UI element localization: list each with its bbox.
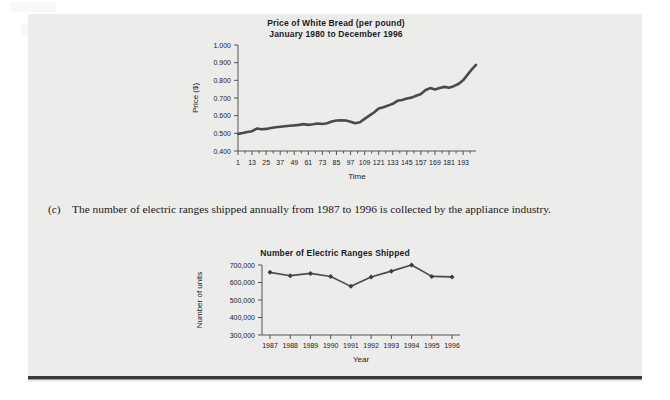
chart2-data-point (389, 268, 394, 273)
chart2-data-point (450, 274, 455, 279)
chart2-data-point (288, 273, 293, 278)
chart2-x-tick-label: 1995 (424, 342, 440, 349)
chart2-y-axis-label: Number of units (195, 271, 204, 327)
chart2-data-point (328, 274, 333, 279)
chart1-subtitle: January 1980 to December 1996 (186, 29, 486, 40)
chart2-data-point (268, 269, 273, 274)
chart2-x-tick-label: 1991 (343, 342, 359, 349)
chart2-data-point (348, 283, 353, 288)
chart1-x-tick-label: 85 (333, 159, 341, 166)
chart2-x-tick-label: 1992 (363, 342, 379, 349)
chart1-y-tick-label: 0.900 (213, 59, 231, 66)
chart1-y-tick-label: 0.600 (213, 112, 231, 119)
paragraph-c: (c) The number of electric ranges shippe… (48, 202, 608, 218)
chart2-x-tick-label: 1996 (444, 342, 460, 349)
chart2-x-tick-label: 1988 (282, 342, 298, 349)
paragraph-c-marker: (c) (48, 202, 61, 218)
page-canvas: Price of White Bread (per pound) January… (0, 0, 670, 400)
chart2-data-point (369, 274, 374, 279)
page-bottom-rule-shadow (28, 379, 642, 380)
chart2-data-point (308, 270, 313, 275)
chart1-x-tick-label: 145 (401, 159, 413, 166)
chart2-y-tick-label: 600,000 (230, 279, 255, 286)
chart-white-bread-price: Price of White Bread (per pound) January… (186, 18, 486, 193)
chart2-x-tick-label: 1994 (404, 342, 420, 349)
chart1-x-tick-label: 193 (457, 159, 469, 166)
chart2-y-tick-label: 700,000 (230, 261, 255, 268)
chart1-y-axis-label: Price ($) (191, 83, 200, 114)
chart1-svg: 1.0000.9000.8000.7000.6000.5000.40011325… (186, 39, 486, 189)
chart1-x-tick-label: 121 (373, 159, 385, 166)
chart1-x-tick-label: 73 (319, 159, 327, 166)
chart2-title: Number of Electric Ranges Shipped (190, 248, 480, 259)
chart1-x-tick-label: 97 (347, 159, 355, 166)
chart1-x-tick-label: 109 (359, 159, 371, 166)
chart2-plot: 700,000600,000500,000400,000300,00019871… (190, 259, 480, 367)
chart2-x-tick-label: 1989 (303, 342, 319, 349)
chart1-x-tick-label: 157 (415, 159, 427, 166)
chart2-y-tick-label: 400,000 (230, 314, 255, 321)
chart1-x-tick-label: 13 (248, 159, 256, 166)
chart2-x-tick-label: 1987 (262, 342, 278, 349)
chart2-y-tick-label: 500,000 (230, 296, 255, 303)
chart1-x-tick-label: 37 (276, 159, 284, 166)
chart1-x-tick-label: 25 (262, 159, 270, 166)
chart2-series-line (270, 265, 452, 286)
chart1-y-tick-label: 0.500 (213, 130, 231, 137)
chart2-y-tick-label: 300,000 (230, 331, 255, 338)
chart1-series-line (238, 65, 476, 134)
chart1-y-tick-label: 0.400 (213, 148, 231, 155)
chart1-x-axis-label: Time (348, 172, 366, 181)
chart2-x-tick-label: 1990 (323, 342, 339, 349)
chart1-x-tick-label: 169 (429, 159, 441, 166)
chart1-plot: 1.0000.9000.8000.7000.6000.5000.40011325… (186, 39, 486, 189)
chart-electric-ranges-shipped: Number of Electric Ranges Shipped 700,00… (190, 248, 480, 368)
paragraph-c-text: The number of electric ranges shipped an… (72, 202, 608, 218)
chart2-svg: 700,000600,000500,000400,000300,00019871… (190, 259, 480, 367)
chart1-x-tick-label: 181 (443, 159, 455, 166)
chart1-title: Price of White Bread (per pound) (186, 18, 486, 29)
chart1-y-tick-label: 1.000 (213, 42, 231, 49)
chart1-x-tick-label: 133 (387, 159, 399, 166)
chart2-x-axis-label: Year (353, 355, 370, 364)
chart1-y-tick-label: 0.800 (213, 77, 231, 84)
scan-artifact-top (10, 2, 56, 12)
chart1-x-tick-label: 49 (290, 159, 298, 166)
chart1-x-tick-label: 61 (304, 159, 312, 166)
chart1-y-tick-label: 0.700 (213, 95, 231, 102)
chart1-x-tick-label: 1 (236, 159, 240, 166)
chart2-x-tick-label: 1993 (384, 342, 400, 349)
